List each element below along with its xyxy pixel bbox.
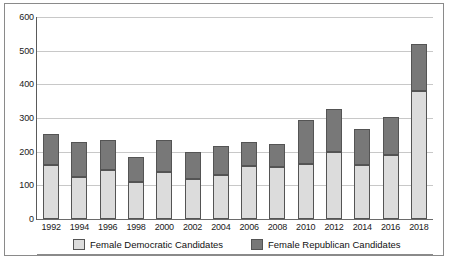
bar-segment-republican[interactable] <box>156 140 172 171</box>
y-tick-label-200: 200 <box>8 148 34 157</box>
y-axis-labels: 6005004003002001000 <box>5 4 34 262</box>
y-tick-label-600: 600 <box>8 13 34 22</box>
bar-segment-republican[interactable] <box>213 146 229 175</box>
bar-group[interactable] <box>185 17 201 219</box>
bar-segment-republican[interactable] <box>241 142 257 167</box>
bar-segment-democratic[interactable] <box>100 170 116 219</box>
gridline-200 <box>37 152 433 153</box>
bar-group[interactable] <box>241 17 257 219</box>
bar-segment-democratic[interactable] <box>213 175 229 219</box>
gridline-600 <box>37 17 433 18</box>
y-tick-label-0: 0 <box>8 215 34 224</box>
legend-label-democratic: Female Democratic Candidates <box>90 239 223 250</box>
y-tick-label-400: 400 <box>8 80 34 89</box>
bar-group[interactable] <box>156 17 172 219</box>
legend-swatch-democratic <box>73 239 85 250</box>
bar-segment-republican[interactable] <box>411 44 427 91</box>
y-tick-label-500: 500 <box>8 47 34 56</box>
bar-segment-democratic[interactable] <box>128 182 144 219</box>
chart-legend: Female Democratic Candidates Female Repu… <box>37 238 433 255</box>
bar-segment-republican[interactable] <box>326 109 342 152</box>
bar-segment-democratic[interactable] <box>241 166 257 219</box>
bar-segment-democratic[interactable] <box>298 164 314 219</box>
bar-group[interactable] <box>100 17 116 219</box>
bar-group[interactable] <box>298 17 314 219</box>
bar-group[interactable] <box>411 17 427 219</box>
chart-frame: 6005004003002001000 19921994199619982000… <box>4 3 444 256</box>
y-tick-label-100: 100 <box>8 181 34 190</box>
x-tick-label-2018: 2018 <box>402 222 436 232</box>
bar-segment-republican[interactable] <box>298 120 314 164</box>
bar-segment-democratic[interactable] <box>411 91 427 219</box>
bar-group[interactable] <box>383 17 399 219</box>
bar-segment-republican[interactable] <box>100 140 116 170</box>
legend-item-democratic: Female Democratic Candidates <box>73 238 223 251</box>
bar-segment-republican[interactable] <box>71 142 87 178</box>
x-axis-labels: 1992199419961998200020022004200620082010… <box>37 222 433 236</box>
bar-segment-democratic[interactable] <box>383 155 399 219</box>
bar-segment-democratic[interactable] <box>185 179 201 219</box>
bar-segment-republican[interactable] <box>354 129 370 165</box>
y-tick-label-300: 300 <box>8 114 34 123</box>
bar-segment-democratic[interactable] <box>71 177 87 219</box>
bar-group[interactable] <box>354 17 370 219</box>
bar-segment-republican[interactable] <box>43 134 59 165</box>
bar-segment-republican[interactable] <box>128 157 144 182</box>
bar-segment-democratic[interactable] <box>269 167 285 219</box>
gridline-500 <box>37 51 433 52</box>
bar-segment-republican[interactable] <box>383 117 399 155</box>
bar-group[interactable] <box>71 17 87 219</box>
plot-area <box>37 17 433 219</box>
bar-segment-republican[interactable] <box>185 152 201 180</box>
bar-group[interactable] <box>326 17 342 219</box>
gridline-0 <box>37 219 433 220</box>
bar-group[interactable] <box>128 17 144 219</box>
bar-segment-republican[interactable] <box>269 144 285 167</box>
bar-segment-democratic[interactable] <box>156 172 172 219</box>
bar-group[interactable] <box>269 17 285 219</box>
legend-label-republican: Female Republican Candidates <box>268 239 401 250</box>
legend-item-republican: Female Republican Candidates <box>251 238 401 251</box>
legend-swatch-republican <box>251 239 263 250</box>
bar-group[interactable] <box>213 17 229 219</box>
bar-segment-democratic[interactable] <box>43 165 59 219</box>
bar-segment-democratic[interactable] <box>354 165 370 219</box>
gridline-400 <box>37 84 433 85</box>
bar-group[interactable] <box>43 17 59 219</box>
bar-segment-democratic[interactable] <box>326 152 342 219</box>
gridline-100 <box>37 185 433 186</box>
gridline-300 <box>37 118 433 119</box>
